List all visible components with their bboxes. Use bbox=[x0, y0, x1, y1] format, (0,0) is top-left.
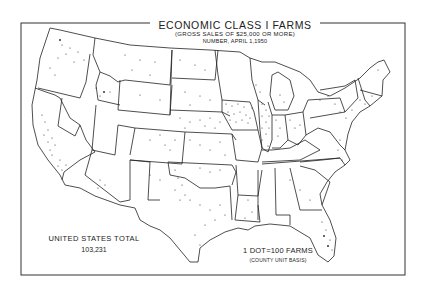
total-value: 103,231 bbox=[44, 246, 144, 253]
legend-note: (COUNTY UNIT BASIS) bbox=[228, 257, 328, 263]
farm-dots bbox=[41, 39, 378, 251]
total-label: UNITED STATES TOTAL bbox=[44, 234, 144, 243]
map-date-line: NUMBER, APRIL 1,1950 bbox=[150, 38, 320, 45]
map-title-block: ECONOMIC CLASS I FARMS (GROSS SALES OF $… bbox=[150, 20, 320, 45]
map-subtitle: (GROSS SALES OF $25,000 OR MORE) bbox=[150, 31, 320, 38]
map-legend: 1 DOT=100 FARMS (COUNTY UNIT BASIS) bbox=[228, 246, 328, 263]
us-total-block: UNITED STATES TOTAL 103,231 bbox=[44, 234, 144, 253]
state-boundaries bbox=[32, 28, 390, 262]
legend-label: 1 DOT=100 FARMS bbox=[228, 246, 328, 255]
map-title: ECONOMIC CLASS I FARMS bbox=[150, 20, 320, 31]
